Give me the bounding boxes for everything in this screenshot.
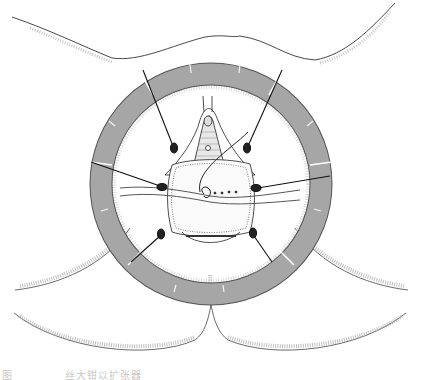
caption-prefix: 图 — [2, 370, 13, 380]
surgical-illustration — [0, 0, 423, 380]
figure-caption: 图 丝大钳以扩张器 — [2, 367, 142, 380]
upper-contour-shading — [30, 12, 390, 63]
caption-text: 丝大钳以扩张器 — [65, 370, 142, 380]
upper-body-contour — [12, 3, 395, 60]
